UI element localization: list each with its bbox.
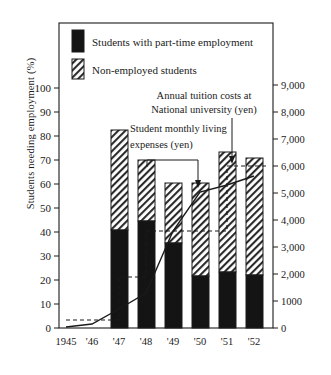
left-tick-30: 30 — [40, 250, 52, 262]
bar-segment-nonemployed — [138, 160, 155, 221]
bar-segment-parttime — [165, 243, 182, 328]
bar-segment-nonemployed — [165, 183, 182, 243]
x-tick-47: '47 — [113, 336, 125, 347]
legend-label-parttime: Students with part-time employment — [92, 36, 253, 48]
legend-swatch-parttime — [72, 30, 84, 52]
bar-segment-parttime — [246, 275, 263, 328]
left-tick-50: 50 — [40, 202, 52, 214]
bar-group-50 — [192, 183, 209, 328]
legend-swatch-nonemployed — [72, 59, 84, 79]
bar-segment-nonemployed — [192, 183, 209, 276]
x-tick-50: '50 — [194, 336, 206, 347]
annotation-tuition-line2: National university (yen) — [151, 104, 257, 116]
right-tick-6000: 6,000 — [281, 161, 305, 172]
annotation-living-line2: expenses (yen) — [130, 139, 193, 151]
chart-svg: 0 10 20 30 40 50 60 70 80 90 100 — [0, 0, 331, 375]
left-tick-70: 70 — [40, 154, 52, 166]
right-axis: 0 1000 2,000 3,000 4,000 5,000 6,000 7,0… — [273, 80, 305, 334]
left-axis-title: Students needing employment (%) — [25, 18, 36, 250]
legend-label-nonemployed: Non-employed students — [92, 64, 197, 76]
bar-group-47 — [111, 130, 128, 328]
left-tick-90: 90 — [40, 106, 52, 118]
left-tick-40: 40 — [40, 226, 52, 238]
left-tick-0: 0 — [46, 322, 52, 334]
right-tick-7000: 7,000 — [281, 134, 305, 145]
right-tick-9000: 9,000 — [281, 80, 305, 91]
left-tick-80: 80 — [40, 130, 52, 142]
right-tick-4000: 4,000 — [281, 215, 305, 226]
right-tick-1000: 1000 — [281, 296, 302, 307]
bar-segment-parttime — [192, 276, 209, 328]
right-tick-8000: 8,000 — [281, 107, 305, 118]
bar-segment-nonemployed — [246, 158, 263, 275]
annotation-tuition-line1: Annual tuition costs at — [157, 90, 252, 101]
right-tick-3000: 3,000 — [281, 242, 305, 253]
left-tick-60: 60 — [40, 178, 52, 190]
right-tick-0: 0 — [281, 323, 286, 334]
x-tick-52: '52 — [248, 336, 260, 347]
bar-segment-nonemployed — [111, 130, 128, 230]
x-tick-48: '48 — [140, 336, 152, 347]
x-tick-51: '51 — [221, 336, 233, 347]
chart-figure: Students needing employment (%) — [0, 0, 331, 375]
x-tick-46: '46 — [86, 336, 98, 347]
bar-group-52 — [246, 158, 263, 328]
bar-group-49 — [165, 183, 182, 328]
x-axis: 1945 '46 '47 '48 '49 '50 '51 '52 — [56, 336, 261, 347]
right-tick-5000: 5,000 — [281, 188, 305, 199]
left-axis: 0 10 20 30 40 50 60 70 80 90 100 — [35, 82, 60, 334]
left-tick-10: 10 — [40, 298, 52, 310]
left-tick-100: 100 — [35, 82, 52, 94]
annotation-living-line1: Student monthly living — [130, 123, 228, 134]
bar-segment-parttime — [219, 272, 236, 328]
x-tick-49: '49 — [167, 336, 179, 347]
x-tick-1945: 1945 — [56, 336, 77, 347]
right-tick-2000: 2,000 — [281, 269, 305, 280]
left-tick-20: 20 — [40, 274, 52, 286]
